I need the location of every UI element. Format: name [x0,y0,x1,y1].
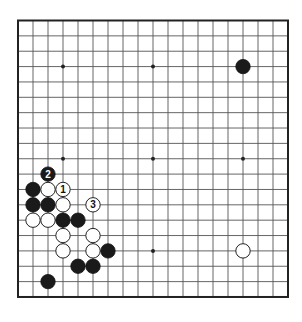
black-stone-icon [86,259,100,273]
black-stone [71,213,85,227]
white-stone-icon [86,228,100,242]
black-stone [26,182,40,196]
white-stone [26,213,40,227]
black-stone [26,198,40,212]
white-stone-icon [26,213,40,227]
black-stone [56,213,70,227]
black-stone [236,59,250,73]
move-number-label: 3 [90,199,96,210]
black-stone-icon [236,59,250,73]
black-stone [71,259,85,273]
white-stone [56,244,70,258]
white-stone-icon [41,182,55,196]
white-stone-icon [56,244,70,258]
white-stone [41,213,55,227]
white-stone: 1 [56,182,70,196]
black-stone-icon [56,213,70,227]
star-point-icon [61,157,65,161]
white-stone [56,198,70,212]
star-point-icon [151,65,155,69]
black-stone [86,259,100,273]
move-number-label: 2 [45,169,51,180]
black-stone [41,274,55,288]
white-stone-icon [236,244,250,258]
black-stone-icon [26,198,40,212]
white-stone-icon [56,198,70,212]
move-number-label: 1 [60,184,66,195]
black-stone-icon [71,259,85,273]
white-stone-icon [86,244,100,258]
black-stone-icon [71,213,85,227]
white-stone [236,244,250,258]
black-stone-icon [101,244,115,258]
white-stone [41,182,55,196]
star-point-icon [151,157,155,161]
black-stone [41,198,55,212]
black-stone-icon [26,182,40,196]
white-stone [86,244,100,258]
black-stone: 2 [41,167,55,181]
black-stone [101,244,115,258]
star-point-icon [61,65,65,69]
white-stone [86,228,100,242]
white-stone-icon [56,228,70,242]
go-board: 213 [0,0,302,322]
star-point-icon [151,249,155,253]
black-stone-icon [41,274,55,288]
white-stone [56,228,70,242]
white-stone: 3 [86,198,100,212]
black-stone-icon [41,198,55,212]
star-point-icon [241,157,245,161]
white-stone-icon [41,213,55,227]
